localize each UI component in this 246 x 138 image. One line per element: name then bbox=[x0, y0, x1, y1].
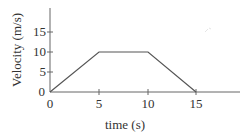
y-tick-label: 15 bbox=[33, 24, 46, 39]
velocity-time-chart: 0 5 10 15 0 5 10 15 time (s) Velocity (m… bbox=[0, 0, 246, 138]
x-tick-label: 5 bbox=[96, 96, 103, 111]
x-axis-title: time (s) bbox=[105, 117, 145, 132]
velocity-line bbox=[50, 52, 196, 92]
y-tick-label: 0 bbox=[39, 84, 46, 99]
x-tick-label: 15 bbox=[190, 96, 203, 111]
y-axis-title: Velocity (m/s) bbox=[9, 13, 24, 87]
x-tick-label: 0 bbox=[47, 96, 54, 111]
y-tick-labels: 0 5 10 15 bbox=[33, 24, 46, 99]
x-tick-labels: 0 5 10 15 bbox=[47, 96, 203, 111]
x-tick-label: 10 bbox=[142, 96, 155, 111]
y-tick-label: 10 bbox=[33, 44, 46, 59]
y-tick-label: 5 bbox=[40, 64, 47, 79]
watermark-mark bbox=[205, 28, 211, 32]
